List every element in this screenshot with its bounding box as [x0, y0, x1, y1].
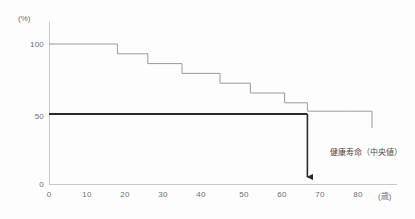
step-line-path [49, 44, 372, 128]
median-annotation-label: 健康寿命（中央値） [330, 146, 402, 157]
health-life-expectancy-chart: (%) (歳) 0 50 100 0 10 20 30 40 50 60 70 … [0, 0, 415, 219]
survival-step-curve [0, 0, 415, 219]
